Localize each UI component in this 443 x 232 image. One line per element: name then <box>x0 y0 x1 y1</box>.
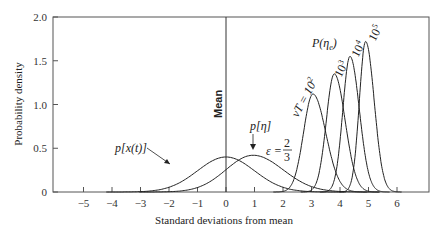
arrowhead-px-icon <box>164 159 170 164</box>
y-tick-label: 0 <box>42 186 48 198</box>
label-epsilon-numerator: 2 <box>284 136 290 150</box>
y-axis-title: Probability density <box>12 62 24 146</box>
probability-density-chart: 00.51.01.52.0 −5−4−3−2−10123456 Mean Pro… <box>0 0 443 232</box>
y-tick-label: 1.0 <box>33 99 47 111</box>
plot-frame <box>53 17 429 192</box>
arrowhead-peta-icon <box>250 144 256 150</box>
x-tick-label: 0 <box>223 197 229 209</box>
label-px: p[x(t)] <box>114 141 147 155</box>
x-tick-label: 2 <box>280 197 286 209</box>
label-P-eta-e: P(ηe) <box>311 36 337 52</box>
label-epsilon-denominator: 3 <box>284 150 290 164</box>
mean-label: Mean <box>212 90 224 118</box>
label-epsilon: ε = <box>266 144 282 158</box>
x-tick-label: −3 <box>135 197 147 209</box>
x-tick-label: 3 <box>309 197 315 209</box>
x-tick-label: −2 <box>163 197 175 209</box>
label-vt-1e2: νT = 102 <box>287 75 320 119</box>
density-curve-5 <box>339 42 401 193</box>
y-tick-label: 0.5 <box>33 142 47 154</box>
label-peta: p[η] <box>249 119 272 133</box>
x-tick-label: 1 <box>252 197 258 209</box>
density-curves <box>106 42 401 193</box>
y-tick-label: 1.5 <box>33 55 47 67</box>
label-vt-1e5: 105 <box>364 22 385 43</box>
x-tick-label: 4 <box>337 197 343 209</box>
x-tick-label: −1 <box>192 197 204 209</box>
y-axis-ticks: 00.51.01.52.0 <box>33 11 58 198</box>
x-tick-label: −4 <box>106 197 118 209</box>
y-tick-label: 2.0 <box>33 11 47 23</box>
x-axis-ticks: −5−4−3−2−10123456 <box>78 187 401 209</box>
x-axis-title: Standard deviations from mean <box>155 214 293 226</box>
x-tick-label: −5 <box>78 197 90 209</box>
x-tick-label: 5 <box>366 197 372 209</box>
x-tick-label: 6 <box>394 197 400 209</box>
